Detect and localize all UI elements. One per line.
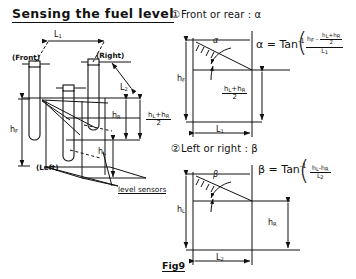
section-1-mean-level-fraction: hL+hR 2 — [222, 86, 247, 102]
section-1-label-hF: hF — [177, 75, 185, 83]
label-level-sensors: level sensors — [118, 186, 166, 194]
label-left: (Left) — [36, 164, 59, 171]
section-1-heading: Front or rear : α — [181, 10, 261, 20]
label-front: (Front) — [12, 54, 40, 61]
section-1-label-L1: L1 — [216, 126, 224, 134]
tank-mean-level-fraction: hL+hR 2 — [146, 112, 171, 128]
figure-canvas: Sensing the fuel level L1 L2 (Front) (Ri… — [0, 0, 356, 279]
section-2-label-hR: hR — [268, 219, 277, 227]
page-title: Sensing the fuel level — [12, 8, 174, 23]
formula-alpha-body: hF - hL+hR 2 L1 — [306, 33, 343, 54]
dimension-label-L2: L2 — [120, 84, 128, 92]
dimension-label-hR: hR — [112, 112, 121, 120]
dimension-label-hF: hF — [10, 126, 18, 134]
formula-beta-open-paren: ( — [299, 157, 309, 183]
section-2-heading: Left or right : β — [181, 144, 258, 154]
left-right-section-lines — [186, 165, 300, 265]
dimension-label-L1: L1 — [54, 31, 62, 39]
section-2-label-L2: L2 — [216, 254, 224, 262]
angle-label-beta: β — [213, 171, 218, 179]
figure-number-label: Fig9 — [162, 261, 185, 272]
section-2-label-hL: hL — [177, 206, 185, 214]
section-1-number: ① — [171, 9, 180, 20]
formula-beta-body: hL-hR L2 — [310, 165, 331, 179]
dimension-label-hL: hL — [98, 148, 106, 156]
label-right: (Right) — [96, 52, 124, 59]
section-2-number: ② — [171, 143, 180, 154]
angle-label-alpha: α — [213, 37, 218, 45]
